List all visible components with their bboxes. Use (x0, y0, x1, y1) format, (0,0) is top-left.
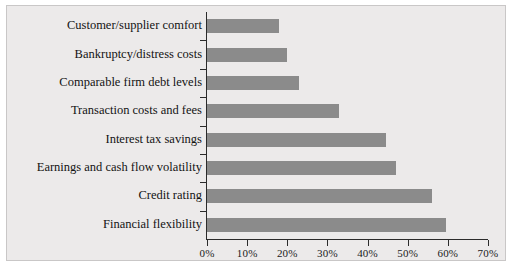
x-axis-line (206, 239, 488, 240)
x-axis-tick-label: 70% (468, 247, 508, 259)
bar (207, 48, 287, 62)
category-label: Transaction costs and fees (71, 103, 202, 117)
x-axis-tick (247, 240, 248, 246)
bar (207, 76, 299, 90)
x-axis-tick-label: 20% (267, 247, 307, 259)
category-label: Bankruptcy/distress costs (75, 47, 202, 61)
y-axis-tick (200, 154, 207, 155)
y-axis-tick (200, 126, 207, 127)
category-label: Earnings and cash flow volatility (37, 160, 202, 174)
y-axis-tick (200, 40, 207, 41)
bar (207, 104, 339, 118)
category-label: Customer/supplier comfort (67, 18, 202, 32)
y-axis-tick (200, 182, 207, 183)
category-label: Interest tax savings (105, 132, 202, 146)
category-label: Credit rating (138, 188, 202, 202)
x-axis-tick-label: 50% (388, 247, 428, 259)
x-axis-tick (448, 240, 449, 246)
y-axis-tick (200, 211, 207, 212)
chart-plot-area: 0%10%20%30%40%50%60%70% Customer/supplie… (0, 0, 512, 268)
x-axis-tick-label: 10% (227, 247, 267, 259)
category-label: Comparable firm debt levels (59, 75, 202, 89)
x-axis-tick (368, 240, 369, 246)
bar (207, 19, 279, 33)
x-axis-tick (488, 240, 489, 246)
category-label: Financial flexibility (103, 217, 202, 231)
x-axis-tick (207, 240, 208, 246)
bar (207, 218, 446, 232)
x-axis-tick-label: 30% (307, 247, 347, 259)
y-axis-tick (200, 69, 207, 70)
x-axis-tick (287, 240, 288, 246)
chart-figure: 0%10%20%30%40%50%60%70% Customer/supplie… (0, 0, 512, 268)
x-axis-tick-label: 0% (187, 247, 227, 259)
y-axis-tick (200, 97, 207, 98)
x-axis-tick-label: 60% (428, 247, 468, 259)
x-axis-tick (408, 240, 409, 246)
bar (207, 161, 396, 175)
x-axis-tick-label: 40% (348, 247, 388, 259)
bar (207, 133, 386, 147)
x-axis-tick (327, 240, 328, 246)
bar (207, 189, 432, 203)
